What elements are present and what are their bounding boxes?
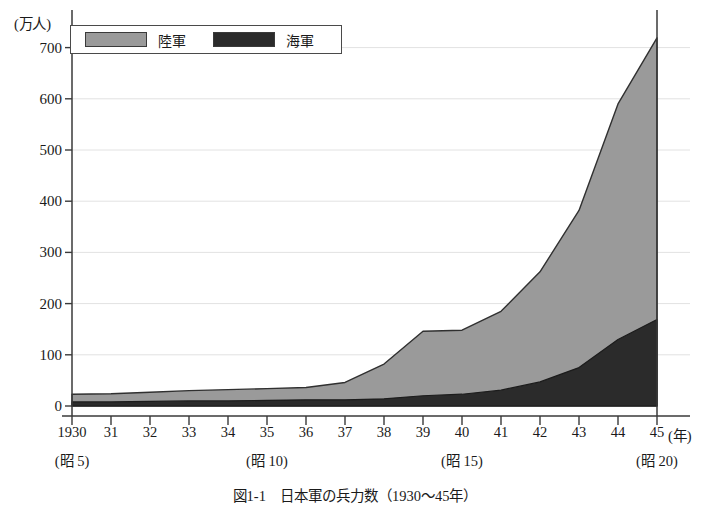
y-axis-tick-label: 400 (18, 193, 62, 210)
x-axis-tick-label: 32 (143, 424, 158, 441)
x-axis-era-label: (昭 10) (246, 449, 288, 470)
legend-entry-navy: 海軍 (213, 30, 317, 50)
figure-caption: 図1-1 日本軍の兵力数（1930～45年） (0, 484, 710, 505)
x-axis-era-label: (昭 5) (55, 449, 90, 470)
legend-label-army: 陸軍 (158, 30, 185, 50)
y-axis-tick-label: 700 (18, 39, 62, 56)
x-axis-era-label: (昭 15) (441, 449, 483, 470)
chart-legend: 陸軍 海軍 (70, 25, 342, 54)
x-axis-tick-label: 39 (416, 424, 431, 441)
y-axis-tick-label: 0 (18, 398, 62, 415)
x-axis-tick-label: 37 (338, 424, 353, 441)
y-axis-tick-label: 500 (18, 142, 62, 159)
x-axis-tick-label: 36 (299, 424, 314, 441)
legend-label-navy: 海軍 (286, 30, 313, 50)
x-axis-tick-label: 45 (650, 424, 665, 441)
y-axis-tick-label: 200 (18, 295, 62, 312)
x-axis-unit-label: (年) (668, 424, 692, 445)
x-axis-tick-label: 31 (104, 424, 119, 441)
y-axis-tick-label: 300 (18, 244, 62, 261)
x-axis-tick-label: 42 (533, 424, 548, 441)
legend-entry-army: 陸軍 (85, 30, 189, 50)
x-axis-tick-label: 35 (260, 424, 275, 441)
legend-swatch-army (85, 32, 147, 47)
x-axis-era-label: (昭 20) (636, 449, 678, 470)
x-axis-tick-label: 34 (221, 424, 236, 441)
x-axis-tick-label: 1930 (58, 424, 87, 441)
y-axis-tick-label: 600 (18, 90, 62, 107)
x-axis-tick-label: 43 (572, 424, 587, 441)
x-axis-tick-label: 33 (182, 424, 197, 441)
x-axis-tick-label: 41 (494, 424, 509, 441)
x-axis-tick-label: 40 (455, 424, 470, 441)
y-axis-tick-label: 100 (18, 346, 62, 363)
x-axis-tick-label: 44 (611, 424, 626, 441)
x-axis-tick-label: 38 (377, 424, 392, 441)
legend-swatch-navy (213, 32, 275, 47)
